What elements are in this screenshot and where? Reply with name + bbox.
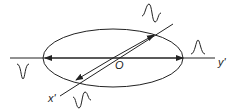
lower-pulse-icon	[73, 92, 91, 108]
origin-label: O	[115, 59, 124, 71]
arrow-upper-right	[113, 35, 154, 58]
ellipse-diagram	[0, 0, 238, 111]
arrow-lower-left	[76, 58, 113, 80]
y-axis-label: y'	[218, 56, 226, 68]
upper-right-pulse-icon	[142, 4, 161, 22]
right-pulse-icon	[191, 40, 205, 54]
x-axis-label: x'	[48, 92, 56, 104]
left-pulse-icon	[17, 64, 29, 79]
